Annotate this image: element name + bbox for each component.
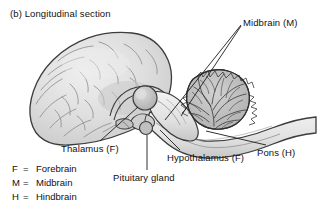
legend-key: F <box>12 163 23 174</box>
label-pituitary-gland: Pituitary gland <box>113 172 175 183</box>
legend-equals: = <box>23 163 36 174</box>
label-hypothalamus: Hypothalamus (F) <box>167 152 244 163</box>
thalamus <box>133 86 157 110</box>
legend-value: Hindbrain <box>36 191 77 202</box>
legend-value: Midbrain <box>36 177 72 188</box>
label-thalamus: Thalamus (F) <box>61 143 119 154</box>
abbreviation-legend: F = Forebrain M = Midbrain H = Hindbrain <box>12 163 77 205</box>
legend-key: H <box>12 191 23 202</box>
legend-key: M <box>12 177 23 188</box>
legend-row: H = Hindbrain <box>12 191 77 205</box>
legend-equals: = <box>23 191 36 202</box>
figure-panel-b-longitudinal-section: (b) Longitudinal section Midbrain (M) Th… <box>0 0 322 216</box>
label-pons: Pons (H) <box>257 147 295 158</box>
legend-value: Forebrain <box>36 163 77 174</box>
panel-caption: (b) Longitudinal section <box>10 8 111 19</box>
legend-row: M = Midbrain <box>12 177 77 191</box>
legend-equals: = <box>23 177 36 188</box>
label-midbrain: Midbrain (M) <box>243 17 298 28</box>
legend-row: F = Forebrain <box>12 163 77 177</box>
